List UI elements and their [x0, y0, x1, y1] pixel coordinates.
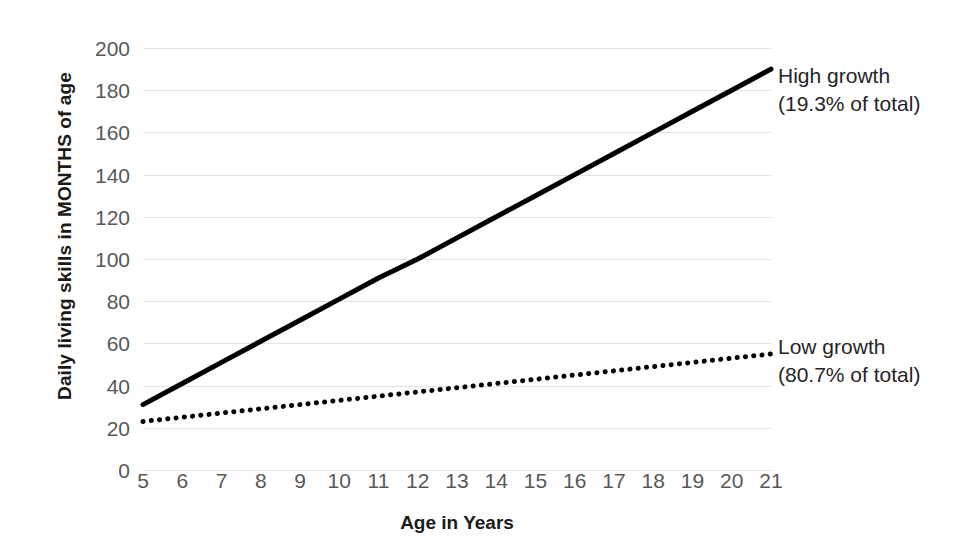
- x-axis-tick-label: 14: [476, 470, 516, 491]
- series-annotation-high-growth-line2: (19.3% of total): [778, 90, 920, 118]
- x-axis-tick-label: 10: [319, 470, 359, 491]
- y-axis-tick-label: 60: [72, 333, 130, 354]
- x-axis-tick-label: 7: [202, 470, 242, 491]
- x-axis-tick-label: 6: [162, 470, 202, 491]
- x-axis-tick-labels: 56789101112131415161718192021: [143, 470, 771, 502]
- series-line-high-growth: [143, 69, 771, 404]
- y-axis-tick-label: 0: [72, 460, 130, 481]
- series-annotation-high-growth-line1: High growth: [778, 62, 920, 90]
- y-axis-tick-label: 140: [72, 164, 130, 185]
- y-axis-tick-label: 20: [72, 417, 130, 438]
- y-axis-tick-label: 200: [72, 38, 130, 59]
- series-annotation-low-growth-line2: (80.7% of total): [778, 361, 920, 389]
- x-axis-tick-label: 15: [516, 470, 556, 491]
- y-axis-tick-label: 100: [72, 249, 130, 270]
- y-axis-tick-labels: 020406080100120140160180200: [72, 48, 130, 470]
- x-axis-tick-label: 16: [555, 470, 595, 491]
- x-axis-tick-label: 8: [241, 470, 281, 491]
- x-axis-tick-label: 5: [123, 470, 163, 491]
- chart-container: Daily living skills in MONTHS of age 020…: [0, 0, 977, 559]
- x-axis-tick-label: 12: [398, 470, 438, 491]
- x-axis-tick-label: 21: [751, 470, 791, 491]
- series-annotation-low-growth-line1: Low growth: [778, 333, 920, 361]
- x-axis-tick-label: 13: [437, 470, 477, 491]
- x-axis-title: Age in Years: [143, 512, 771, 534]
- series-annotation-high-growth: High growth (19.3% of total): [778, 62, 920, 119]
- y-axis-tick-label: 80: [72, 291, 130, 312]
- x-axis-tick-label: 18: [633, 470, 673, 491]
- x-axis-tick-label: 20: [712, 470, 752, 491]
- plot-area: [143, 48, 771, 470]
- x-axis-tick-label: 17: [594, 470, 634, 491]
- series-lines: [143, 48, 771, 470]
- series-annotation-low-growth: Low growth (80.7% of total): [778, 333, 920, 390]
- y-axis-tick-label: 180: [72, 80, 130, 101]
- x-axis-tick-label: 11: [359, 470, 399, 491]
- y-axis-tick-label: 120: [72, 206, 130, 227]
- series-line-low-growth: [143, 354, 771, 422]
- x-axis-tick-label: 9: [280, 470, 320, 491]
- x-axis-tick-label: 19: [673, 470, 713, 491]
- y-axis-tick-label: 40: [72, 375, 130, 396]
- y-axis-tick-label: 160: [72, 122, 130, 143]
